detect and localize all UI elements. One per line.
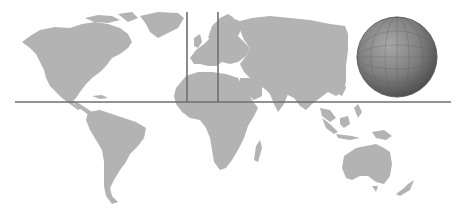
southeast-asia xyxy=(320,108,336,122)
madagascar xyxy=(254,140,262,162)
caribbean xyxy=(92,95,108,99)
world-map-svg xyxy=(0,0,464,216)
philippines xyxy=(354,104,362,118)
globe xyxy=(357,17,437,97)
new-guinea xyxy=(372,130,392,140)
australia xyxy=(342,144,392,184)
greenland xyxy=(140,12,184,38)
tasmania xyxy=(372,186,378,192)
java xyxy=(336,134,360,140)
new-zealand xyxy=(396,180,414,196)
british-isles xyxy=(194,34,202,48)
south-america xyxy=(86,110,146,204)
borneo xyxy=(340,116,350,128)
world-map-figure xyxy=(0,0,464,216)
arctic-islands-2 xyxy=(118,12,138,22)
arctic-islands xyxy=(85,15,120,23)
north-america xyxy=(22,22,132,110)
